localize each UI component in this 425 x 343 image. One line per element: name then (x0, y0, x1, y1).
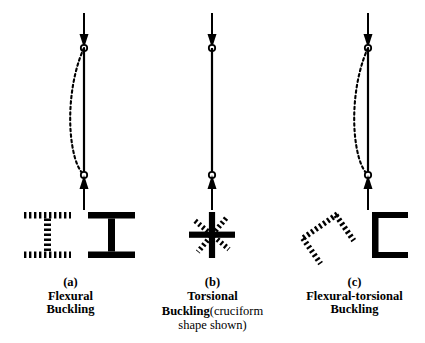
caption-note-b-part2: shape shown) (142, 319, 283, 333)
load-arrow-top-icon (80, 13, 89, 48)
load-arrow-bottom-icon (364, 175, 373, 210)
load-arrow-bottom-icon (80, 175, 89, 210)
buckled-shape-curve (70, 48, 84, 175)
caption-note-b-part1: (cruciform (210, 304, 263, 318)
caption-name-b-line2-wrap: Buckling(cruciform (142, 303, 283, 319)
cross-section-wide-flange-solid (88, 212, 135, 258)
caption-panel-b: (b) Torsional Buckling(cruciform shape s… (142, 276, 283, 332)
panel-a-drawing (0, 0, 141, 275)
caption-letter-b: (b) (142, 276, 283, 290)
panel-c-drawing (284, 0, 425, 275)
buckled-shape-curve (354, 48, 368, 175)
cross-section-channel-solid (372, 212, 408, 258)
panel-flexural-buckling: (a) Flexural Buckling (0, 0, 141, 343)
cross-section-wide-flange-dashed (24, 215, 71, 255)
caption-name-a-line2: Buckling (0, 303, 141, 317)
caption-name-c-line1: Flexural-torsional (284, 290, 425, 304)
panel-flexural-torsional-buckling: (c) Flexural-torsional Buckling (284, 0, 425, 343)
load-arrow-top-icon (364, 13, 373, 48)
buckling-modes-figure: (a) Flexural Buckling (0, 0, 425, 343)
panel-b-drawing (142, 0, 283, 275)
caption-panel-c: (c) Flexural-torsional Buckling (284, 276, 425, 317)
shear-center-marker (210, 233, 214, 237)
panel-torsional-buckling: (b) Torsional Buckling(cruciform shape s… (142, 0, 283, 343)
caption-name-b-line1: Torsional (142, 290, 283, 304)
caption-letter-a: (a) (0, 276, 141, 290)
caption-name-c-line2: Buckling (284, 303, 425, 317)
caption-name-b-line2: Buckling (162, 304, 210, 318)
load-arrow-top-icon (208, 13, 217, 48)
caption-panel-a: (a) Flexural Buckling (0, 276, 141, 317)
cross-section-channel-dashed (301, 214, 355, 265)
caption-letter-c: (c) (284, 276, 425, 290)
load-arrow-bottom-icon (208, 175, 217, 210)
caption-name-a-line1: Flexural (0, 290, 141, 304)
